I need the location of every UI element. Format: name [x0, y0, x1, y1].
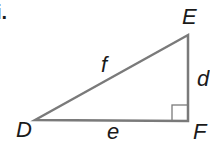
- side-label-d: d: [197, 68, 209, 90]
- vertex-label-e: E: [182, 6, 197, 28]
- right-angle-marker: [172, 105, 188, 121]
- vertex-label-f: F: [193, 121, 206, 143]
- side-label-f: f: [101, 54, 107, 76]
- vertex-label-d: D: [16, 119, 32, 141]
- side-label-e: e: [107, 121, 119, 143]
- triangle-def: [35, 35, 188, 121]
